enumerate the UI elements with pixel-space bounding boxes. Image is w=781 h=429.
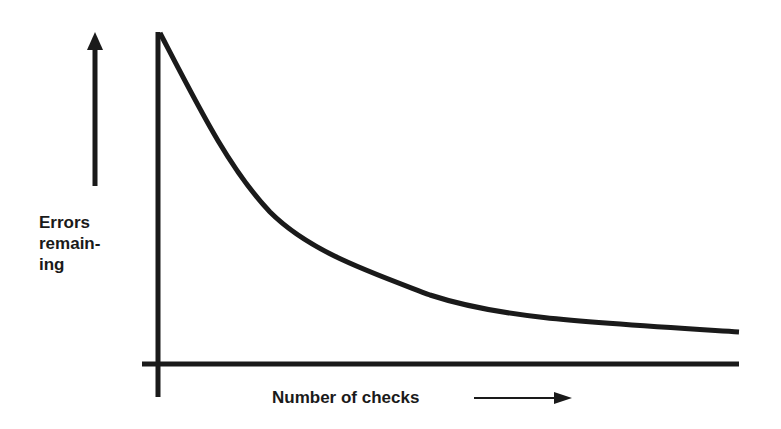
y-axis-label: Errors remain- ing	[39, 212, 100, 275]
y-label-line: ing	[39, 254, 100, 275]
y-label-line: remain-	[39, 233, 100, 254]
x-axis-label: Number of checks	[272, 388, 419, 408]
up-arrow-icon	[87, 32, 103, 50]
y-label-line: Errors	[39, 212, 100, 233]
errors-curve	[160, 33, 739, 332]
decay-diagram	[0, 0, 781, 429]
right-arrow-icon	[554, 392, 572, 404]
